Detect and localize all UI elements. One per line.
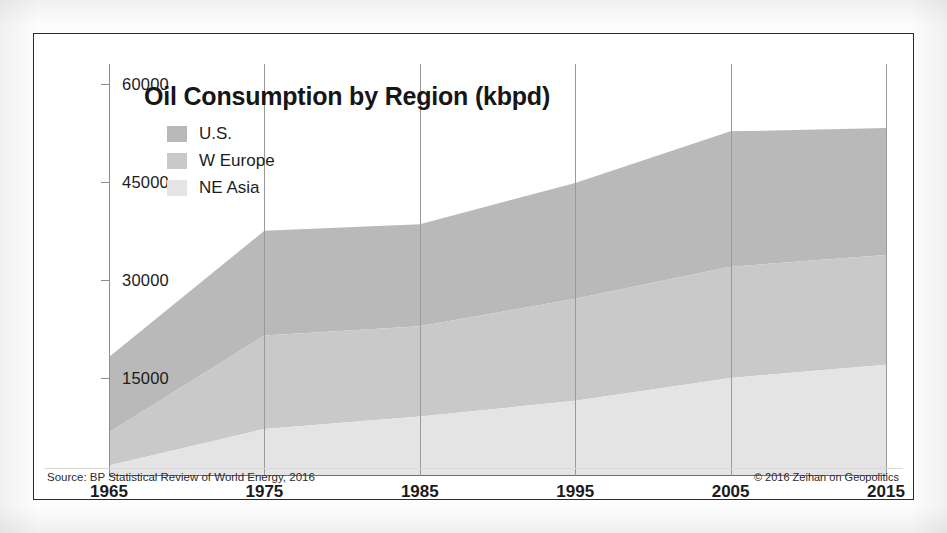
chart-title: Oil Consumption by Region (kbpd) xyxy=(144,82,550,111)
chart-legend: U.S. W Europe NE Asia xyxy=(167,120,275,201)
source-note: Source: BP Statistical Review of World E… xyxy=(47,471,315,483)
chart-footer: Source: BP Statistical Review of World E… xyxy=(34,471,913,491)
legend-item-us: U.S. xyxy=(167,120,275,147)
legend-label-w-europe: W Europe xyxy=(199,151,275,171)
legend-item-ne-asia: NE Asia xyxy=(167,174,275,201)
screenshot-page: Oil Consumption by Region (kbpd) U.S. W … xyxy=(0,0,947,533)
gridline-2015 xyxy=(886,64,887,476)
legend-item-w-europe: W Europe xyxy=(167,147,275,174)
legend-label-us: U.S. xyxy=(199,124,232,144)
legend-swatch-us xyxy=(167,126,187,142)
chart-figure: Oil Consumption by Region (kbpd) U.S. W … xyxy=(33,33,914,500)
y-tick-label-15000: 15000 xyxy=(122,368,169,387)
gridline-2005 xyxy=(731,64,732,476)
copyright-note: © 2016 Zeihan on Geopolitics xyxy=(754,471,899,483)
legend-swatch-w-europe xyxy=(167,153,187,169)
y-tick-label-30000: 30000 xyxy=(122,270,169,289)
y-tick-label-45000: 45000 xyxy=(122,172,169,191)
legend-swatch-ne-asia xyxy=(167,180,187,196)
legend-label-ne-asia: NE Asia xyxy=(199,178,259,198)
footer-divider xyxy=(44,468,903,469)
gridline-1985 xyxy=(420,64,421,476)
gridline-1995 xyxy=(575,64,576,476)
y-axis-labels: 60000450003000015000 xyxy=(97,64,169,476)
